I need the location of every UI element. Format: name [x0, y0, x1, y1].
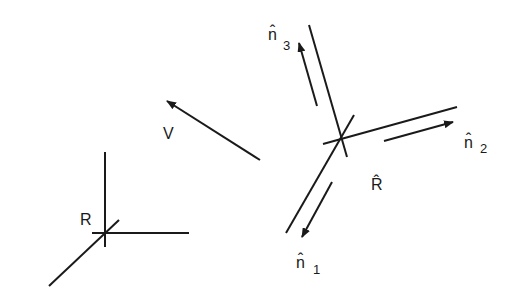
n3-subscript: 3	[283, 38, 290, 53]
velocity-label: V	[163, 125, 174, 142]
n1-arrow-icon	[302, 182, 332, 237]
n2-label: n̂	[464, 132, 473, 151]
frame-r-diagonal-axis	[49, 220, 119, 286]
n3-label: n̂	[268, 24, 277, 43]
velocity-vector: V	[163, 101, 260, 160]
frame-r-hat: R̂ n̂ 3 n̂ 2 n̂ 1	[268, 24, 487, 277]
frame-r-hat-label: R̂	[371, 174, 383, 193]
frame-r: R	[49, 152, 189, 286]
n2-subscript: 2	[480, 141, 487, 156]
velocity-arrow-icon	[167, 101, 260, 160]
frame-r-label: R	[80, 211, 92, 228]
n1-axis	[286, 115, 354, 233]
diagram-canvas: R V R̂ n̂ 3 n̂ 2 n̂ 1	[0, 0, 523, 292]
n3-arrow-icon	[299, 43, 317, 106]
n1-label: n̂	[296, 252, 305, 271]
n1-subscript: 1	[313, 262, 320, 277]
